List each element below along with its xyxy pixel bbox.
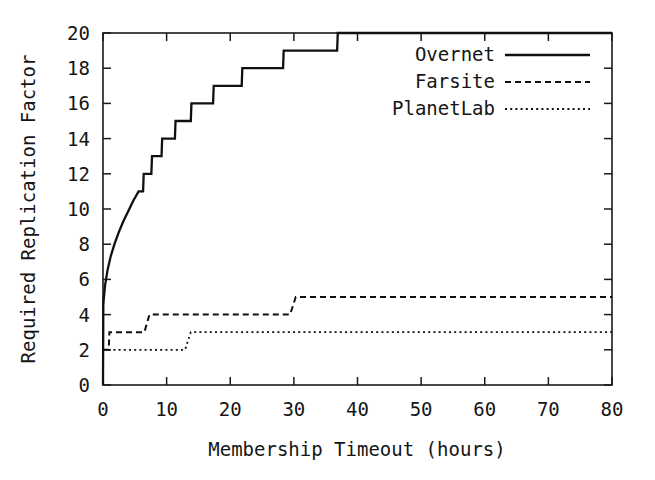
y-tick-label: 14 xyxy=(67,128,90,150)
y-tick-label: 8 xyxy=(79,233,90,255)
x-tick-label: 60 xyxy=(473,398,496,420)
x-tick-label: 30 xyxy=(282,398,305,420)
x-tick-label: 50 xyxy=(410,398,433,420)
x-tick-label: 70 xyxy=(537,398,560,420)
y-tick-label: 20 xyxy=(67,22,90,44)
x-tick-label: 40 xyxy=(346,398,369,420)
legend-label-overnet: Overnet xyxy=(415,43,495,65)
legend-label-planetlab: PlanetLab xyxy=(392,97,495,119)
x-axis-title: Membership Timeout (hours) xyxy=(208,438,505,460)
y-tick-label: 18 xyxy=(67,57,90,79)
y-tick-label: 2 xyxy=(79,339,90,361)
y-tick-label: 10 xyxy=(67,198,90,220)
legend-label-farsite: Farsite xyxy=(415,70,495,92)
y-tick-label: 0 xyxy=(79,374,90,396)
y-axis-title: Required Replication Factor xyxy=(17,55,39,364)
x-tick-label: 10 xyxy=(155,398,178,420)
x-tick-label: 0 xyxy=(97,398,108,420)
y-tick-label: 6 xyxy=(79,268,90,290)
x-tick-label: 20 xyxy=(219,398,242,420)
y-tick-label: 12 xyxy=(67,163,90,185)
x-axis-tick-labels: 01020304050607080 xyxy=(97,398,623,420)
y-tick-label: 16 xyxy=(67,92,90,114)
y-tick-label: 4 xyxy=(79,304,90,326)
x-tick-label: 80 xyxy=(601,398,624,420)
chart-figure: 02468101214161820 01020304050607080 Requ… xyxy=(0,0,655,480)
